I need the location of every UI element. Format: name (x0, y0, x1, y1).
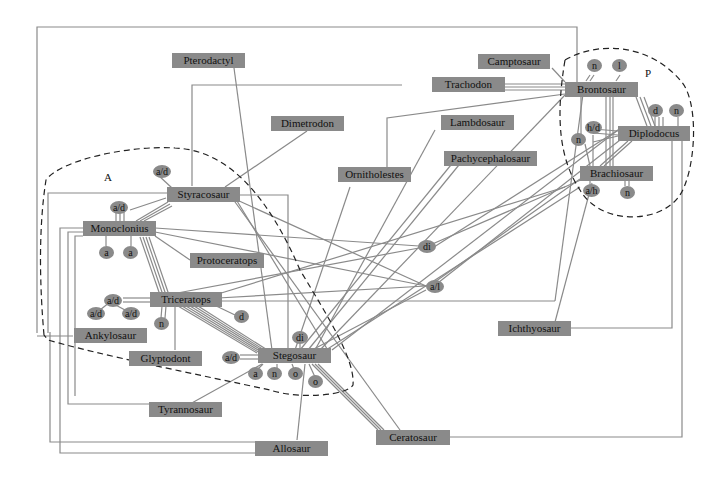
tag-stegosaur-n: n (267, 367, 282, 380)
node-pachycephalosaur[interactable]: Pachycephalosaur (444, 151, 537, 166)
node-lambdosaur[interactable]: Lambdosaur (441, 115, 514, 130)
tag-stegosaur-a: a (248, 367, 263, 380)
tag-brachiosaur-hd: h/d (585, 121, 602, 134)
tag-monoclonius-a2: a (123, 246, 138, 259)
tag-al: a/l (426, 280, 444, 293)
node-brontosaur[interactable]: Brontosaur (565, 82, 638, 97)
node-diplodocus[interactable]: Diplodocus (618, 126, 690, 141)
tag-brontosaur-n2: n (571, 133, 586, 146)
tag-monoclonius-ad: a/d (110, 201, 128, 214)
region-label-p: P (645, 67, 651, 79)
node-pterodactyl[interactable]: Pterodactyl (172, 53, 245, 68)
tag-triceratops-ad-left: a/d (87, 307, 105, 320)
connection-lines (0, 0, 728, 484)
tag-triceratops-n: n (154, 317, 169, 330)
tag-brontosaur-n: n (587, 59, 602, 72)
tag-triceratops-ad-right: a/d (122, 307, 140, 320)
node-protoceratops[interactable]: Protoceratops (190, 253, 264, 268)
node-monoclonius[interactable]: Monoclonius (83, 221, 156, 236)
tag-triceratops-ad: a/d (104, 294, 122, 307)
diagram-canvas: A P Pterodactyl Camptosaur Trachodon Bro… (0, 0, 728, 484)
node-allosaur[interactable]: Allosaur (255, 441, 328, 456)
node-brachiosaur[interactable]: Brachiosaur (580, 166, 653, 181)
node-glyptodont[interactable]: Glyptodont (129, 351, 202, 366)
node-ankylosaur[interactable]: Ankylosaur (74, 328, 147, 343)
tag-diplodocus-d: d (648, 104, 663, 117)
tag-styracosaur-ad: a/d (153, 165, 171, 178)
node-dimetrodon[interactable]: Dimetrodon (271, 116, 344, 131)
node-ichthyosaur[interactable]: Ichthyosaur (498, 321, 571, 336)
tag-stegosaur-o1: o (288, 367, 303, 380)
node-ceratosaur[interactable]: Ceratosaur (376, 430, 450, 445)
node-ornitholestes[interactable]: Ornitholestes (338, 167, 411, 182)
tag-stegosaur-di: di (292, 331, 308, 344)
region-label-a: A (104, 171, 112, 183)
tag-diplodocus-n: n (669, 104, 684, 117)
node-trachodon[interactable]: Trachodon (432, 77, 505, 92)
tag-brontosaur-l: l (612, 59, 627, 72)
node-triceratops[interactable]: Triceratops (150, 292, 222, 307)
node-camptosaur[interactable]: Camptosaur (478, 54, 550, 69)
node-stegosaur[interactable]: Stegosaur (258, 348, 331, 363)
tag-monoclonius-a1: a (99, 246, 114, 259)
tag-brachiosaur-n: n (620, 186, 635, 199)
node-tyrannosaur[interactable]: Tyrannosaur (149, 402, 222, 417)
tag-stegosaur-ad: a/d (222, 351, 240, 364)
node-styracosaur[interactable]: Styracosaur (167, 187, 240, 202)
tag-di: di (418, 240, 436, 253)
tag-stegosaur-o2: o (308, 375, 323, 388)
tag-triceratops-d: d (234, 310, 249, 323)
tag-brachiosaur-ah: a/h (583, 184, 600, 197)
